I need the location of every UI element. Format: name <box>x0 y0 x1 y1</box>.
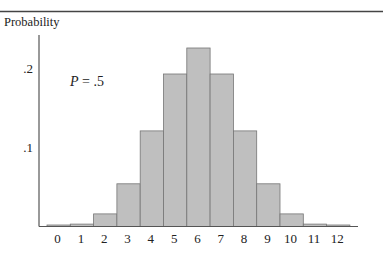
annotation-value: = .5 <box>79 74 104 89</box>
binomial-histogram: Probability .1.2 0123456789101112 P = .5 <box>0 0 383 254</box>
x-tick-labels: 0123456789101112 <box>54 231 343 246</box>
x-tick-label: 7 <box>218 231 225 246</box>
y-tick-labels: .1.2 <box>23 61 33 155</box>
x-tick-label: 2 <box>101 231 108 246</box>
x-tick-label: 0 <box>54 231 61 246</box>
x-tick-label: 3 <box>124 231 131 246</box>
x-tick-label: 10 <box>284 231 297 246</box>
x-tick-label: 12 <box>331 231 344 246</box>
x-tick-label: 11 <box>308 231 321 246</box>
x-tick-label: 1 <box>78 231 85 246</box>
bar-6 <box>187 48 210 227</box>
annotation-var: P <box>69 74 79 89</box>
bar-9 <box>257 184 280 227</box>
bar-4 <box>140 131 163 227</box>
bar-3 <box>117 184 140 227</box>
x-tick-label: 5 <box>171 231 178 246</box>
y-tick-label: .1 <box>23 140 33 155</box>
x-tick-label: 9 <box>264 231 271 246</box>
bar-10 <box>280 214 303 227</box>
bar-5 <box>164 74 187 227</box>
y-tick-label: .2 <box>23 61 33 76</box>
x-tick-label: 6 <box>194 231 201 246</box>
x-tick-label: 4 <box>148 231 155 246</box>
bar-8 <box>233 131 256 227</box>
annotation-p: P = .5 <box>69 74 104 89</box>
x-tick-label: 8 <box>241 231 248 246</box>
bar-7 <box>210 74 233 227</box>
bar-2 <box>94 214 117 227</box>
y-axis-label: Probability <box>4 15 60 29</box>
